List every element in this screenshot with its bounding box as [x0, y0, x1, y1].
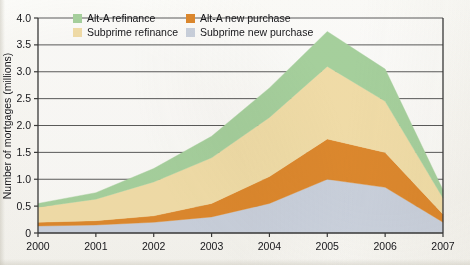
- y-tick-label: 1.0: [16, 173, 31, 185]
- y-tick-label: 1.5: [16, 146, 31, 158]
- y-tick-label: 4.0: [16, 12, 31, 24]
- x-tick-label: 2002: [142, 240, 166, 252]
- y-axis-ticks: 00.51.01.52.02.53.03.54.0: [16, 12, 38, 239]
- y-tick-label: 2.0: [16, 119, 31, 131]
- stacked-area-chart-figure: 00.51.01.52.02.53.03.54.0 20002001200220…: [0, 0, 470, 265]
- y-tick-label: 0.5: [16, 200, 31, 212]
- y-tick-label: 2.5: [16, 92, 31, 104]
- x-tick-label: 2007: [431, 240, 455, 252]
- legend-swatch: [186, 14, 195, 23]
- legend-swatch: [73, 14, 82, 23]
- x-tick-label: 2003: [200, 240, 224, 252]
- x-tick-label: 2000: [26, 240, 50, 252]
- chart-canvas: 00.51.01.52.02.53.03.54.0 20002001200220…: [0, 0, 470, 265]
- legend-label: Subprime new purchase: [200, 26, 313, 38]
- x-tick-label: 2006: [373, 240, 397, 252]
- legend-label: Alt-A refinance: [87, 12, 155, 24]
- legend-swatch: [186, 28, 195, 37]
- y-axis-label: Number of mortgages (millions): [1, 53, 13, 199]
- legend-swatch: [73, 28, 82, 37]
- x-tick-label: 2004: [258, 240, 282, 252]
- y-tick-label: 3.0: [16, 65, 31, 77]
- legend-label: Subprime refinance: [87, 26, 178, 38]
- y-tick-label: 0: [25, 227, 31, 239]
- x-tick-label: 2005: [316, 240, 340, 252]
- x-tick-label: 2001: [84, 240, 108, 252]
- y-tick-label: 3.5: [16, 38, 31, 50]
- x-axis-ticks: 20002001200220032004200520062007: [26, 233, 455, 252]
- legend-label: Alt-A new purchase: [200, 12, 291, 24]
